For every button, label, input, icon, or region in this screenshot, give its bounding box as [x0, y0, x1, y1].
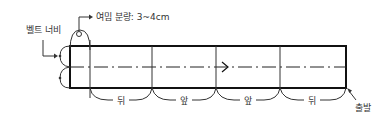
segment-label-4: 뒤: [308, 95, 316, 106]
margin-pointer-arrowhead-icon: [89, 15, 93, 20]
margin-point: [77, 32, 82, 37]
belt-width-arc-bottom: [60, 67, 70, 88]
belt-width-dot-top: [59, 55, 62, 58]
margin-label: 여밈 분량: 3~4cm: [96, 11, 169, 22]
belt-width-label: 벨트 너비: [26, 25, 61, 35]
start-label: 출발: [355, 103, 371, 113]
belt-width-arrowhead-icon: [54, 54, 58, 59]
margin-pointer: [79, 17, 89, 31]
segment-label-1: 뒤: [117, 95, 125, 106]
start-arrowhead-icon: [347, 88, 352, 93]
belt-width-dot-bottom: [59, 77, 62, 80]
segment-label-3: 앞: [244, 95, 252, 106]
belt-diagram: 여밈 분량: 3~4cm 벨트 너비 뒤 앞 앞 뒤 출발: [0, 0, 392, 119]
belt-width-pointer: [43, 40, 54, 56]
segment-label-2: 앞: [180, 95, 188, 106]
belt-width-arc-top: [60, 46, 70, 67]
